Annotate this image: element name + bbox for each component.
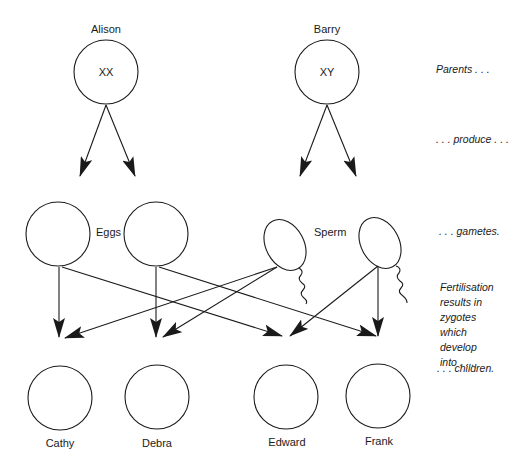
annotation-parents: Parents . . . (436, 62, 490, 77)
parent-name-alison: Alison (91, 23, 121, 35)
child-name-edward: Edward (268, 436, 305, 448)
sperm-head-2 (351, 210, 410, 276)
arrow-egg1-edward (62, 267, 282, 336)
annotation-fertilisation-line: which (440, 325, 494, 340)
parent-genotype-alison: XX (99, 66, 114, 78)
parent-genotype-barry: XY (320, 66, 335, 78)
annotation-fertilisation: Fertilisation results in zygotes which d… (440, 280, 494, 370)
arrow-barry-sperm2 (327, 105, 356, 176)
egg-circle-2 (124, 202, 188, 266)
arrow-alison-egg2 (106, 105, 135, 176)
arrow-alison-egg1 (80, 105, 106, 176)
sperm-label: Sperm (314, 226, 346, 238)
annotation-gametes: . . . gametes. (439, 224, 500, 239)
sperm-tail-2 (396, 266, 407, 303)
annotation-fertilisation-line: zygotes (440, 310, 494, 325)
child-name-cathy: Cathy (46, 437, 75, 449)
sperm-tail-1 (299, 268, 307, 304)
annotation-fertilisation-line: Fertilisation (440, 280, 494, 295)
annotation-produce: . . . produce . . . (436, 132, 509, 147)
arrow-egg2-frank (159, 267, 376, 336)
annotation-fertilisation-line: results in (440, 295, 494, 310)
child-name-frank: Frank (365, 435, 393, 447)
child-name-debra: Debra (142, 437, 172, 449)
sperm-head-1 (256, 212, 315, 278)
arrow-sperm1-debra (163, 267, 277, 337)
arrow-barry-sperm1 (300, 105, 327, 176)
parent-name-barry: Barry (314, 23, 340, 35)
egg-circle-1 (26, 202, 90, 266)
annotation-fertilisation-line: develop (440, 340, 494, 355)
child-circle-debra (125, 365, 189, 429)
child-circle-edward (254, 365, 318, 429)
eggs-label: Eggs (96, 226, 121, 238)
arrow-sperm2-edward (290, 266, 378, 336)
child-circle-frank (346, 364, 410, 428)
annotation-children: . . . children. (437, 361, 494, 376)
child-circle-cathy (28, 366, 92, 430)
